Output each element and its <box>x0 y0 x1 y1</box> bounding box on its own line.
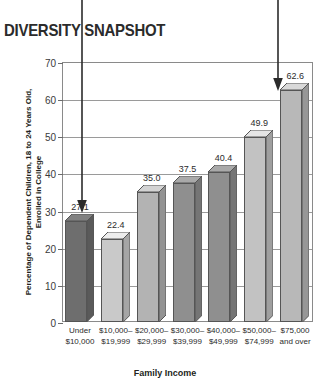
x-axis-tick-label-line2: $39,999 <box>173 337 202 346</box>
x-axis-tick-label-line1: $40,000– <box>207 326 240 335</box>
bar-front-face <box>280 90 302 323</box>
x-axis-tick-label-line1: $20,000– <box>135 326 168 335</box>
bar[interactable]: 27.1 <box>65 214 87 322</box>
y-axis-tick-label: 10 <box>45 280 56 291</box>
bar-side-face <box>123 232 130 322</box>
y-axis-tick-label: 70 <box>45 58 56 69</box>
x-axis-tick-label-line2: $10,000 <box>65 337 94 346</box>
y-axis-title: Percentage of Dependent Children, 18 to … <box>20 62 48 322</box>
x-axis-tick-label-line1: Under <box>69 326 91 335</box>
bar-side-face <box>159 185 166 322</box>
y-axis-tick-label: 20 <box>45 243 56 254</box>
bar[interactable]: 49.9 <box>244 130 266 322</box>
x-axis-tick-label-line1: $10,000– <box>99 326 132 335</box>
bar-front-face <box>101 239 123 322</box>
y-axis-tick-label: 0 <box>50 318 56 329</box>
y-axis-tick-label: 50 <box>45 132 56 143</box>
x-axis-tick-label-line1: $75,000 <box>281 326 310 335</box>
x-axis-tick-label-line2: $49,999 <box>209 337 238 346</box>
x-axis-tick-label-line2: and over <box>279 337 310 346</box>
bar[interactable]: 35.0 <box>137 185 159 322</box>
x-axis-tick-label-line1: $50,000– <box>243 326 276 335</box>
x-axis-tick-label-line2: $19,999 <box>101 337 130 346</box>
y-axis-tick <box>58 323 63 324</box>
x-axis-tick-labels: Under$10,000$10,000–$19,999$20,000–$29,9… <box>62 326 313 354</box>
bar-front-face <box>208 172 230 322</box>
y-axis-tick-label: 60 <box>45 95 56 106</box>
bar-front-face <box>65 221 87 322</box>
bar-side-face <box>230 165 237 322</box>
x-axis-tick-label-line2: $74,999 <box>245 337 274 346</box>
bar[interactable]: 62.6 <box>280 83 302 323</box>
page-title: DIVERSITY SNAPSHOT <box>4 22 165 39</box>
x-axis-tick-label-line2: $29,999 <box>137 337 166 346</box>
y-axis-title-line1: Percentage of Dependent Children, 18 to … <box>24 89 33 296</box>
x-axis-tick-label: $75,000and over <box>273 326 317 348</box>
bar-side-face <box>266 130 273 322</box>
bars-layer: 27.122.435.037.540.449.962.6 <box>62 62 313 322</box>
bar-side-face <box>87 214 94 322</box>
bar-value-label: 27.1 <box>50 202 110 212</box>
bar-front-face <box>173 183 195 322</box>
y-axis-tick-label: 40 <box>45 169 56 180</box>
bar-side-face <box>302 83 309 323</box>
bar[interactable]: 37.5 <box>173 176 195 322</box>
bar-side-face <box>195 176 202 322</box>
bar-value-label: 62.6 <box>265 71 325 81</box>
x-axis-tick-label-line1: $30,000– <box>171 326 204 335</box>
bar[interactable]: 22.4 <box>101 232 123 322</box>
y-axis-title-line2: Enrolled in College <box>34 156 43 228</box>
bar-front-face <box>244 137 266 322</box>
bar-front-face <box>137 192 159 322</box>
bar[interactable]: 40.4 <box>208 165 230 322</box>
x-axis-title: Family Income <box>0 368 330 378</box>
